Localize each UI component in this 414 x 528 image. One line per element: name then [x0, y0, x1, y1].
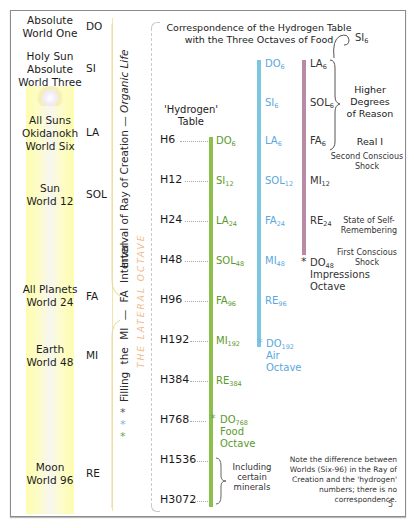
- world-earth: Earth World 48: [14, 343, 86, 369]
- footnote-line: Note the difference between: [262, 455, 397, 465]
- world-line: Earth: [14, 343, 86, 356]
- asterisk-icon: *: [257, 336, 263, 349]
- world-sun: Sun World 12: [14, 182, 86, 208]
- world-line: World 48: [14, 356, 86, 369]
- real-i-label: Real I: [342, 137, 398, 147]
- air-note: DO6: [265, 58, 285, 71]
- organic-life-text: Organic Life: [118, 50, 130, 113]
- food-note: SOL48: [216, 255, 244, 268]
- air-note: FA24: [265, 215, 285, 228]
- connector: [185, 261, 208, 262]
- world-line: All Suns: [14, 114, 86, 127]
- food-note: SI12: [216, 175, 234, 188]
- hydrogen-h384: H384: [160, 373, 189, 386]
- connector: [192, 501, 208, 502]
- connector: [185, 181, 208, 182]
- si6-note: SI6: [355, 32, 368, 45]
- world-moon: Moon World 96: [14, 461, 86, 487]
- connector: [190, 341, 208, 342]
- sunburst-icon: [36, 86, 64, 106]
- world-holy-sun: Holy Sun Absolute World Three: [14, 50, 86, 89]
- world-line: Okidanokh: [14, 127, 86, 140]
- label-line: Impressions: [310, 269, 370, 281]
- label-line: Shock: [324, 162, 410, 172]
- lateral-octave-label: THE LATERAL OCTAVE: [136, 234, 146, 368]
- impressions-note: LA6: [310, 58, 327, 71]
- hydrogen-bracket: [151, 28, 158, 506]
- world-all-planets: All Planets World 24: [14, 283, 86, 309]
- connector: [185, 221, 208, 222]
- impressions-note: MI12: [310, 175, 330, 188]
- label-line: Air: [266, 350, 302, 362]
- curl-icon: [330, 30, 354, 60]
- higher-degrees-label: Higher Degrees of Reason: [342, 84, 398, 120]
- food-octave-bar: [209, 137, 213, 507]
- label-line: Octave: [220, 438, 256, 450]
- connector: [192, 461, 208, 462]
- title-line: Correspondence of the Hydrogen Table: [159, 22, 359, 34]
- hydrogen-h1536: H1536: [160, 453, 196, 466]
- impressions-octave-bar: [302, 60, 306, 255]
- world-line: Moon: [14, 461, 86, 474]
- higher-degrees-brace: [328, 58, 342, 152]
- world-line: World 24: [14, 296, 86, 309]
- air-note: MI48: [265, 255, 285, 268]
- label-line: Higher: [342, 84, 398, 96]
- hydrogen-h768: H768: [160, 413, 189, 426]
- asterisk-icon: *: [120, 430, 126, 443]
- world-line: World 12: [14, 195, 86, 208]
- hydrogen-h24: H24: [160, 213, 182, 226]
- hydrogen-h48: H48: [160, 253, 182, 266]
- air-note: RE96: [265, 295, 287, 308]
- label-line: Octave: [310, 281, 370, 293]
- label-line: Shock: [324, 258, 410, 268]
- footnote-line: numbers; there is no: [262, 485, 397, 495]
- label-line: Food: [220, 426, 256, 438]
- vertical-text-interval: Interval of Ray of Creation — Organic Li…: [118, 50, 130, 268]
- title-line: with the Three Octaves of Food: [159, 34, 359, 46]
- asterisk-icon: *: [210, 412, 216, 425]
- connector: [190, 421, 206, 422]
- hydrogen-h96: H96: [160, 293, 182, 306]
- food-note: FA96: [216, 295, 236, 308]
- page-number: 5: [388, 500, 393, 509]
- air-note: SOL12: [265, 175, 293, 188]
- world-line: All Planets: [14, 283, 86, 296]
- world-line: Sun: [14, 182, 86, 195]
- hydrogen-table-label: 'Hydrogen' Table: [156, 104, 226, 128]
- label-line: State of Self-: [334, 216, 404, 226]
- connector: [185, 301, 208, 302]
- world-line: World 96: [14, 474, 86, 487]
- label-line: Remembering: [334, 226, 404, 236]
- hydrogen-h12: H12: [160, 173, 182, 186]
- footnote-line: correspondence.: [262, 495, 397, 505]
- air-octave-bar: [257, 60, 261, 347]
- air-note: SI6: [265, 97, 278, 110]
- food-note: RE384: [216, 375, 242, 388]
- vertical-text-filling: Filling the MI — FA Interval: [118, 243, 130, 402]
- food-octave-label: Food Octave: [220, 426, 256, 450]
- asterisk-icon: *: [301, 255, 307, 268]
- hydrogen-h192: H192: [160, 333, 189, 346]
- footnote-line: Worlds (Six-96) in the Ray of: [262, 465, 397, 475]
- diagram-title: Correspondence of the Hydrogen Table wit…: [159, 22, 359, 46]
- footnote-line: Creation and the 'hydrogen': [262, 475, 397, 485]
- air-note: LA6: [265, 135, 282, 148]
- hydrogen-h3072: H3072: [160, 493, 196, 506]
- label-line: 'Hydrogen': [156, 104, 226, 116]
- label-line: First Conscious: [324, 248, 410, 258]
- first-shock-label: First Conscious Shock: [324, 248, 410, 268]
- food-note: DO6: [216, 135, 236, 148]
- label-line: Second Conscious: [324, 152, 410, 162]
- world-line: World Six: [14, 140, 86, 153]
- connector: [190, 381, 208, 382]
- world-line: Holy Sun: [14, 50, 86, 63]
- label-line: Table: [156, 116, 226, 128]
- world-line: Absolute: [14, 63, 86, 76]
- second-shock-label: Second Conscious Shock: [324, 152, 410, 172]
- impressions-octave-label: Impressions Octave: [310, 269, 370, 293]
- air-octave-label: Air Octave: [266, 350, 302, 374]
- label-line: of Reason: [342, 108, 398, 120]
- footnote: Note the difference between Worlds (Six-…: [262, 455, 397, 505]
- world-line: World One: [14, 27, 86, 40]
